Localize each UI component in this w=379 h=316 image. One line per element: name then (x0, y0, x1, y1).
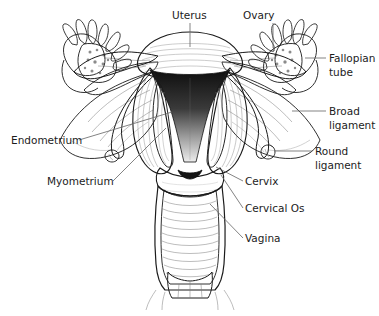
label-cervix: Cervix (245, 175, 278, 187)
label-round-ligament-line1: Round (315, 145, 348, 157)
label-ovary: Ovary (243, 9, 274, 21)
label-broad-ligament-line2: ligament (329, 119, 375, 131)
anatomical-diagram: Uterus Ovary Fallopian tube Broad ligame… (0, 0, 379, 316)
label-fallopian-tube-line1: Fallopian (329, 52, 375, 64)
label-uterus: Uterus (172, 9, 207, 21)
label-fallopian-tube-line2: tube (329, 66, 353, 78)
label-vagina: Vagina (245, 232, 280, 244)
label-cervical-os: Cervical Os (245, 202, 304, 214)
label-myometrium: Myometrium (47, 175, 114, 187)
label-broad-ligament-line1: Broad (329, 105, 360, 117)
label-endometrium: Endometrium (11, 134, 82, 146)
label-round-ligament-line2: ligament (315, 159, 361, 171)
